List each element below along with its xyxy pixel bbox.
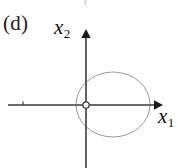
y-axis-label-var: x	[54, 15, 63, 39]
top-crop-artifact	[85, 0, 87, 5]
x-axis-label: x1	[158, 106, 174, 129]
panel-label: (d)	[3, 13, 28, 34]
phase-portrait-figure: (d) x2 x1	[0, 0, 178, 168]
y-axis-label: x2	[54, 17, 70, 40]
x-axis-label-subscript: 1	[168, 115, 175, 130]
vertical-axis	[81, 29, 90, 168]
y-axis-label-subscript: 2	[64, 26, 71, 41]
equilibrium-point	[83, 102, 89, 108]
x-axis-label-var: x	[158, 104, 167, 128]
y-axis-arrowhead	[81, 29, 90, 38]
